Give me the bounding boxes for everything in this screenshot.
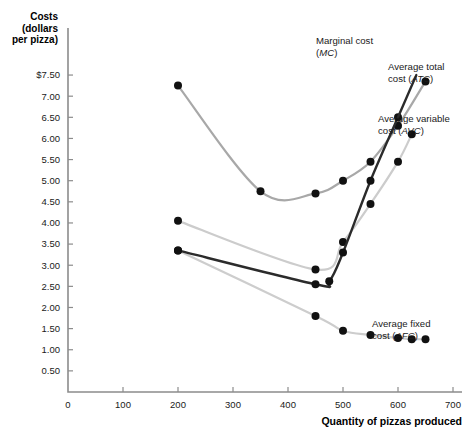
series-atc	[174, 77, 430, 200]
series-label-line: Marginal cost	[316, 35, 373, 46]
data-point-mc	[174, 246, 182, 254]
y-axis-title-line: Costs	[30, 11, 58, 22]
cost-curves-chart: 0.501.001.502.002.503.003.504.004.505.00…	[0, 0, 469, 442]
x-tick-label: 300	[225, 399, 241, 410]
data-point-mc	[339, 249, 347, 257]
data-point-afc	[339, 327, 347, 335]
x-tick-label: 0	[65, 399, 70, 410]
data-point-atc	[312, 189, 320, 197]
series-label-line: cost (ATC)	[388, 73, 433, 84]
y-tick-label: 6.00	[42, 133, 61, 144]
series-label-line: Average variable	[378, 113, 450, 124]
series-label-avc: Average variablecost (AVC)	[378, 113, 450, 136]
y-tick-label: 2.00	[42, 302, 61, 313]
y-tick-label: 1.00	[42, 344, 61, 355]
data-point-mc	[367, 177, 375, 185]
x-tick-label: 100	[115, 399, 131, 410]
data-point-atc	[257, 187, 265, 195]
data-point-mc	[325, 277, 333, 285]
series-label-line: (MC)	[316, 47, 337, 58]
x-tick-label: 200	[170, 399, 186, 410]
y-axis-title-line: per pizza)	[12, 34, 58, 45]
y-tick-label: 5.00	[42, 175, 61, 186]
series-label-line: cost (AVC)	[378, 125, 424, 136]
data-point-avc	[367, 200, 375, 208]
series-label-line: cost (AFC)	[372, 330, 418, 341]
x-tick-label: 500	[335, 399, 351, 410]
chart-canvas: 0.501.001.502.002.503.003.504.004.505.00…	[0, 0, 469, 442]
y-tick-label: 7.00	[42, 91, 61, 102]
data-point-afc	[312, 312, 320, 320]
y-tick-label: 2.50	[42, 281, 61, 292]
data-point-mc	[312, 280, 320, 288]
x-axis-title: Quantity of pizzas produced	[321, 415, 462, 427]
data-point-avc	[312, 265, 320, 273]
y-tick-label: 0.50	[42, 365, 61, 376]
y-tick-label: 3.00	[42, 260, 61, 271]
y-tick-label: 5.50	[42, 154, 61, 165]
y-tick-label: $7.50	[36, 69, 60, 80]
data-point-avc	[174, 217, 182, 225]
series-label-mc: Marginal cost(MC)	[316, 35, 373, 58]
data-point-atc	[174, 82, 182, 90]
series-label-line: Average fixed	[372, 318, 431, 329]
x-tick-label: 400	[280, 399, 296, 410]
data-point-atc	[339, 177, 347, 185]
series-label-atc: Average totalcost (ATC)	[388, 61, 444, 84]
series-label-line: Average total	[388, 61, 444, 72]
y-axis-title-line: (dollars	[22, 23, 59, 34]
y-tick-label: 4.00	[42, 217, 61, 228]
series-label-afc: Average fixedcost (AFC)	[372, 318, 431, 341]
y-tick-label: 4.50	[42, 196, 61, 207]
x-tick-label: 700	[445, 399, 461, 410]
data-point-atc	[367, 158, 375, 166]
data-point-afc	[422, 335, 430, 343]
y-tick-label: 1.50	[42, 323, 61, 334]
y-tick-label: 6.50	[42, 112, 61, 123]
x-tick-label: 600	[390, 399, 406, 410]
data-point-avc	[394, 158, 402, 166]
y-tick-label: 3.50	[42, 238, 61, 249]
